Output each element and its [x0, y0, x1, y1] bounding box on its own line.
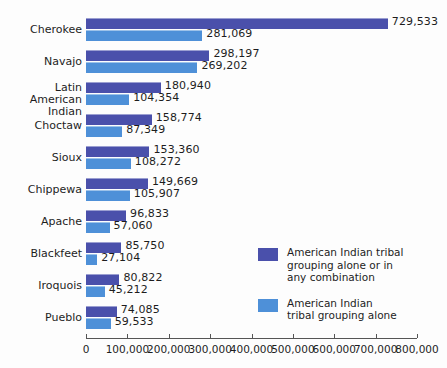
legend-item: American Indiantribal grouping alone	[258, 297, 438, 322]
bar-light	[86, 286, 105, 297]
bar-row: 149,669105,907	[86, 174, 417, 206]
category-label: Blackfeet	[2, 248, 82, 260]
legend-label: American Indian tribalgrouping alone or …	[287, 246, 403, 284]
category-label: Latin AmericanIndian	[2, 82, 82, 118]
category-label: Iroquois	[2, 280, 82, 292]
bar-light	[86, 190, 130, 201]
bar-value-label: 104,354	[133, 91, 179, 104]
bar-light	[86, 222, 110, 233]
bar-row: 298,197269,202	[86, 46, 417, 78]
category-label: Pueblo	[2, 312, 82, 324]
bar-value-label: 105,907	[134, 187, 180, 200]
category-label: Chippewa	[2, 184, 82, 196]
bar-chart: CherokeeNavajoLatin AmericanIndianChocta…	[0, 0, 447, 368]
bar-row: 153,360108,272	[86, 142, 417, 174]
x-axis-tick-label: 700,000	[354, 343, 397, 355]
category-label: Sioux	[2, 152, 82, 164]
x-axis-tick-label: 100,000	[106, 343, 149, 355]
category-label: Navajo	[2, 56, 82, 68]
legend-swatch	[258, 299, 278, 312]
bar-light	[86, 30, 202, 41]
x-axis-tick-label: 300,000	[188, 343, 231, 355]
category-label: Cherokee	[2, 24, 82, 36]
x-axis-tick	[86, 334, 87, 338]
category-label: Apache	[2, 216, 82, 228]
x-axis-tick	[417, 334, 418, 338]
bar-value-label: 281,069	[206, 27, 252, 40]
bar-value-label: 269,202	[201, 59, 247, 72]
bar-value-label: 729,533	[392, 15, 438, 28]
bar-row: 96,83357,060	[86, 206, 417, 238]
x-axis-tick	[293, 334, 294, 338]
x-axis-tick	[210, 334, 211, 338]
x-axis-tick-label: 600,000	[313, 343, 356, 355]
legend-label: American Indiantribal grouping alone	[287, 297, 397, 322]
x-axis-tick-label: 0	[83, 343, 90, 355]
bar-value-label: 108,272	[135, 155, 181, 168]
x-axis-tick-label: 200,000	[147, 343, 190, 355]
legend-swatch	[258, 248, 278, 261]
chart-legend: American Indian tribalgrouping alone or …	[258, 246, 438, 335]
category-axis-labels: CherokeeNavajoLatin AmericanIndianChocta…	[0, 14, 82, 338]
bar-value-label: 87,349	[126, 123, 165, 136]
x-axis-tick	[127, 334, 128, 338]
bar-row: 180,940104,354	[86, 78, 417, 110]
bar-value-label: 57,060	[114, 219, 153, 232]
x-axis-tick	[252, 334, 253, 338]
bar-value-label: 45,212	[109, 283, 148, 296]
legend-item: American Indian tribalgrouping alone or …	[258, 246, 438, 284]
bar-light	[86, 318, 111, 329]
x-axis-tick-labels: 0100,000200,000300,000400,000500,000600,…	[0, 343, 447, 359]
bar-light	[86, 126, 122, 137]
bar-row: 158,77487,349	[86, 110, 417, 142]
category-label: Choctaw	[2, 120, 82, 132]
bar-row: 729,533281,069	[86, 14, 417, 46]
bar-value-label: 59,533	[115, 315, 154, 328]
bar-dark	[86, 50, 209, 61]
x-axis-tick-label: 800,000	[395, 343, 438, 355]
bar-dark	[86, 306, 117, 317]
bar-light	[86, 94, 129, 105]
bar-light	[86, 62, 197, 73]
x-axis-tick	[376, 334, 377, 338]
x-axis-tick	[169, 334, 170, 338]
x-axis-tick	[334, 334, 335, 338]
x-axis-tick-label: 400,000	[230, 343, 273, 355]
x-axis-line	[86, 338, 417, 339]
bar-light	[86, 254, 97, 265]
bar-value-label: 27,104	[101, 251, 140, 264]
x-axis-tick-label: 500,000	[271, 343, 314, 355]
bar-light	[86, 158, 131, 169]
